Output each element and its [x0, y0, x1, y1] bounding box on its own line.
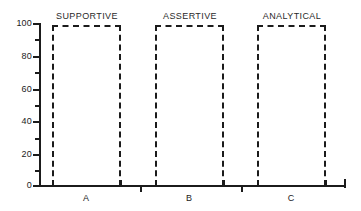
- y-tick-label-100: 100: [4, 19, 32, 28]
- y-tick-50: [35, 105, 41, 107]
- bar-title-assertive: ASSERTIVE: [149, 11, 231, 21]
- y-tick-100: [33, 23, 41, 25]
- y-tick-label-0: 0: [4, 181, 32, 190]
- y-tick-90: [35, 39, 41, 41]
- x-tick-major-ab: [140, 185, 142, 192]
- x-tick-major-bc: [241, 185, 243, 192]
- y-tick-label-40: 40: [4, 117, 32, 126]
- y-tick-label-60: 60: [4, 85, 32, 94]
- y-tick-30: [35, 138, 41, 140]
- y-tick-80: [33, 56, 41, 58]
- y-tick-20: [33, 154, 41, 156]
- y-tick-60: [33, 89, 41, 91]
- bar-supportive: [52, 25, 121, 186]
- y-tick-40: [33, 121, 41, 123]
- bar-title-analytical: ANALYTICAL: [251, 11, 333, 21]
- x-axis-label-c: C: [271, 193, 311, 203]
- x-axis-label-a: A: [66, 193, 106, 203]
- bar-analytical: [257, 25, 326, 186]
- x-axis-label-b: B: [169, 193, 209, 203]
- y-tick-70: [35, 72, 41, 74]
- y-tick-label-20: 20: [4, 150, 32, 159]
- x-axis-end-cap: [344, 179, 346, 188]
- y-tick-0: [33, 185, 41, 187]
- y-tick-10: [35, 170, 41, 172]
- y-axis-tick-labels: 100 80 60 40 20 0: [0, 0, 32, 211]
- bar-title-supportive: SUPPORTIVE: [46, 11, 128, 21]
- y-tick-label-80: 80: [4, 52, 32, 61]
- bar-chart: 100 80 60 40 20 0 SUPPORTIVE ASSERTIVE A…: [0, 0, 361, 211]
- bar-assertive: [155, 25, 224, 186]
